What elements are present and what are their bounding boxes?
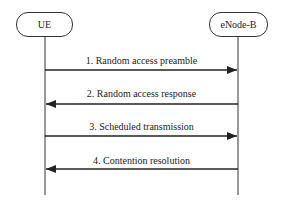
entity-ue: UE xyxy=(16,12,73,37)
entity-ue-label: UE xyxy=(38,19,51,30)
message-label-1: 1. Random access preamble xyxy=(45,55,238,66)
message-label-4: 4. Contention resolution xyxy=(45,155,238,166)
entity-enodeb-label: eNode-B xyxy=(220,19,256,30)
message-label-2: 2. Random access response xyxy=(45,88,238,99)
message-label-3: 3. Scheduled transmission xyxy=(45,121,238,132)
entity-enodeb: eNode-B xyxy=(209,12,268,37)
